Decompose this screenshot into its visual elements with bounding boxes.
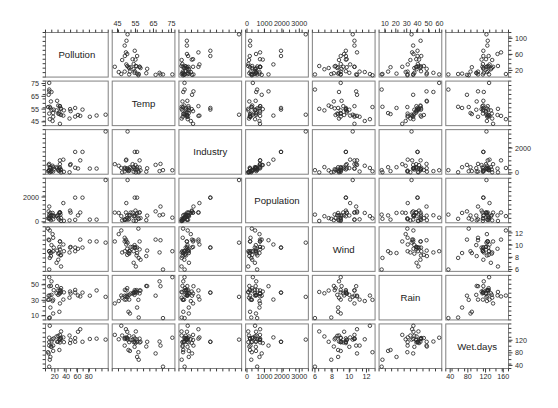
y-tick-label-right-Pollution: 60 [515, 50, 523, 59]
scatter-panel-Population-Temp [112, 178, 175, 223]
x-tick-label-top-Rain: 60 [435, 19, 443, 28]
y-tick-label-right-Wind: 8 [515, 253, 519, 262]
variable-label-Temp: Temp [132, 98, 155, 109]
scatter-panel-Pollution-Rain [379, 33, 442, 78]
x-tick-label-top-Temp: 55 [131, 19, 139, 28]
y-tick-label-left-Rain: 10 [31, 311, 39, 320]
x-tick-label-top-Rain: 50 [425, 19, 433, 28]
scatter-panel-Wind-Temp [112, 227, 175, 272]
scatter-panel-Industry-Temp [112, 130, 175, 175]
scatter-panel-Rain-Wet.days [446, 275, 509, 320]
x-tick-label-bottom-Wind: 6 [313, 372, 317, 381]
y-tick-label-right-Industry: 0 [515, 168, 519, 177]
x-tick-label-bottom-Wind: 8 [330, 372, 334, 381]
y-tick-label-left-Temp: 55 [31, 105, 39, 114]
variable-label-Population: Population [254, 195, 299, 206]
x-tick-label-top-Temp: 65 [149, 19, 157, 28]
y-tick-label-right-Wind: 6 [515, 265, 519, 274]
x-tick-label-bottom-Population: 2000 [274, 372, 290, 381]
splom-canvas: PollutionTempIndustryPopulationWindRainW… [0, 0, 558, 408]
y-tick-label-left-Temp: 65 [31, 92, 39, 101]
x-tick-label-top-Temp: 45 [114, 19, 122, 28]
y-tick-label-right-Wet.days: 120 [515, 336, 527, 345]
x-tick-label-top-Rain: 20 [392, 19, 400, 28]
y-tick-label-left-Population: 0 [35, 217, 39, 226]
variable-label-Wet.days: Wet.days [457, 341, 497, 352]
scatter-panel-Rain-Wind [312, 275, 375, 320]
variable-label-Industry: Industry [193, 146, 227, 157]
y-tick-label-left-Population: 2000 [23, 193, 39, 202]
y-tick-label-right-Pollution: 100 [515, 34, 527, 43]
variable-label-Rain: Rain [401, 292, 421, 303]
x-tick-label-bottom-Pollution: 40 [62, 372, 70, 381]
y-tick-label-right-Industry: 2000 [515, 144, 531, 153]
scatter-panel-Temp-Industry [179, 81, 242, 126]
x-tick-label-bottom-Pollution: 60 [73, 372, 81, 381]
scatter-panel-Wet.days-Temp [112, 324, 175, 369]
x-tick-label-top-Population: 3000 [291, 19, 307, 28]
scatter-panel-Industry-Rain [379, 130, 442, 175]
scatter-panel-Population-Rain [379, 178, 442, 223]
variable-label-Pollution: Pollution [58, 49, 95, 60]
x-tick-label-bottom-Pollution: 80 [85, 372, 93, 381]
y-tick-label-right-Wind: 12 [515, 229, 523, 238]
scatter-panel-Rain-Industry [179, 275, 242, 320]
scatter-panel-Temp-Pollution [46, 81, 109, 126]
y-tick-label-left-Rain: 50 [31, 280, 39, 289]
x-tick-label-top-Population: 2000 [274, 19, 290, 28]
x-tick-label-top-Rain: 30 [403, 19, 411, 28]
x-tick-label-bottom-Wind: 12 [362, 372, 370, 381]
x-tick-label-top-Population: 1000 [256, 19, 272, 28]
x-tick-label-bottom-Wet.days: 160 [497, 372, 509, 381]
x-tick-label-bottom-Wet.days: 40 [446, 372, 454, 381]
x-tick-label-top-Temp: 75 [167, 19, 175, 28]
variable-label-Wind: Wind [333, 244, 355, 255]
scatter-panel-Temp-Population [246, 81, 309, 126]
scatter-panel-Pollution-Temp [112, 33, 175, 78]
y-tick-label-right-Wind: 10 [515, 241, 523, 250]
x-tick-label-bottom-Wind: 10 [345, 372, 353, 381]
scatter-panel-Wet.days-Rain [379, 324, 442, 369]
x-tick-label-top-Population: 0 [245, 19, 249, 28]
scatter-panel-Temp-Wind [312, 81, 375, 126]
y-tick-label-left-Temp: 75 [31, 79, 39, 88]
y-tick-label-left-Rain: 30 [31, 296, 39, 305]
x-tick-label-top-Rain: 10 [381, 19, 389, 28]
x-tick-label-bottom-Population: 0 [245, 372, 249, 381]
x-tick-label-bottom-Wet.days: 80 [464, 372, 472, 381]
scatterplot-matrix-figure: PollutionTempIndustryPopulationWindRainW… [0, 0, 558, 408]
x-tick-label-bottom-Population: 1000 [256, 372, 272, 381]
x-tick-label-bottom-Population: 3000 [291, 372, 307, 381]
y-tick-label-left-Temp: 45 [31, 117, 39, 126]
x-tick-label-bottom-Pollution: 20 [51, 372, 59, 381]
x-tick-label-bottom-Wet.days: 120 [480, 372, 492, 381]
y-tick-label-right-Pollution: 20 [515, 66, 523, 75]
x-tick-label-top-Rain: 40 [414, 19, 422, 28]
y-tick-label-right-Wet.days: 40 [515, 361, 523, 370]
scatter-panel-Temp-Rain [379, 81, 442, 126]
scatter-panel-Wet.days-Wind [312, 324, 375, 369]
y-tick-label-right-Wet.days: 80 [515, 348, 523, 357]
